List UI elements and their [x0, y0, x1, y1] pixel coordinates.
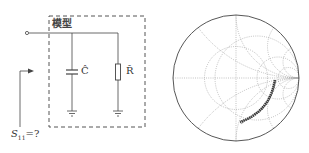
s11-trace	[240, 80, 275, 122]
capacitor-ground-icon	[67, 111, 77, 116]
diagram-canvas	[0, 0, 309, 153]
capacitor-label: Ĉ	[81, 66, 89, 76]
resistor-label: R̂	[126, 66, 134, 76]
s11-label: S11=?	[11, 129, 39, 141]
s11-arrow	[20, 69, 34, 128]
resistor	[116, 33, 121, 111]
input-terminal	[25, 31, 28, 34]
resistor-ground-icon	[113, 111, 123, 116]
smith-chart-boundary	[173, 15, 299, 141]
capacitor	[66, 33, 78, 111]
model-label: 模型	[52, 19, 72, 29]
smith-chart	[173, 0, 309, 153]
